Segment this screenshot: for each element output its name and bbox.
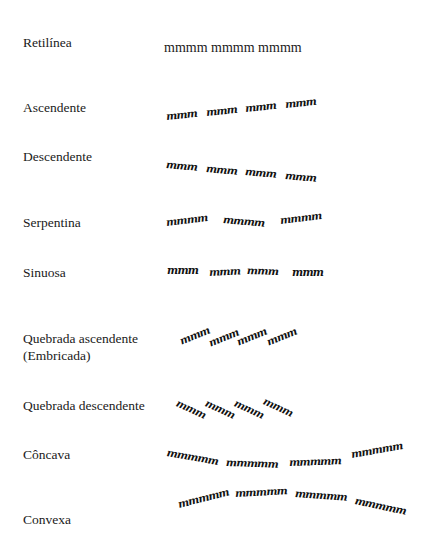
script-word: mmm [205, 162, 237, 177]
script-word: mmmmm [226, 456, 278, 470]
script-word: mmmmm [235, 484, 288, 499]
label-quebrada-ascendente: Quebrada ascendente [23, 330, 138, 347]
sample-retilinea: mmmm mmmm mmmm [164, 40, 302, 56]
script-word: mmm [167, 264, 198, 276]
script-word: mmm [265, 325, 298, 348]
label-embricada: (Embricada) [23, 347, 90, 364]
script-word: mmmmm [354, 494, 407, 517]
script-word: mmmmm [289, 454, 341, 468]
label-sinuosa: Sinuosa [23, 264, 66, 281]
label-concava: Côncava [23, 446, 70, 463]
script-word: mmm [165, 107, 197, 122]
script-word: mmmmm [350, 439, 403, 460]
script-word: mmm [209, 264, 241, 278]
script-word: mmmmm [166, 446, 219, 467]
script-word: mmmmm [177, 486, 230, 510]
label-convexa: Convexa [23, 511, 71, 528]
script-word: mmm [235, 325, 268, 348]
script-word: mmmm [165, 211, 208, 228]
script-word: mmm [244, 165, 276, 180]
label-quebrada-descendente: Quebrada descendente [23, 397, 145, 414]
script-word: mmm [247, 264, 279, 277]
script-word: mmm [284, 169, 316, 184]
script-word: mmm [205, 103, 237, 118]
script-word: mmm [165, 158, 197, 173]
script-word: mmm [174, 397, 207, 421]
script-word: mmmm [222, 213, 265, 229]
script-word: mmmmm [295, 487, 348, 503]
label-serpentina: Serpentina [23, 214, 81, 231]
script-word: mmm [203, 397, 236, 421]
script-word: mmm [284, 95, 316, 110]
script-word: mmm [261, 395, 294, 419]
script-word: mmm [178, 324, 211, 347]
script-word: mmm [244, 99, 276, 114]
script-word: mmm [292, 266, 323, 278]
label-descendente: Descendente [23, 148, 92, 165]
label-ascendente: Ascendente [23, 99, 86, 116]
script-word: mmm [232, 397, 265, 421]
label-retilinea: Retilínea [23, 34, 72, 51]
script-word: mmmm [279, 209, 322, 226]
